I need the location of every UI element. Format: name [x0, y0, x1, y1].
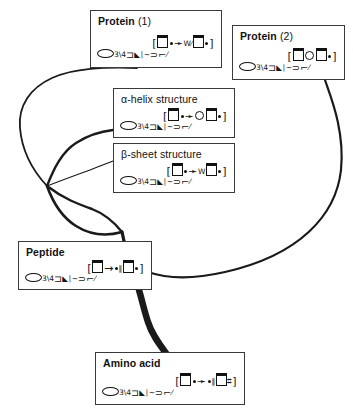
node-box-protein-1[interactable]: Protein (1) [➛W⁄] 3\4⊐◣∣~⊃⌐⁄: [90, 10, 222, 68]
node-label-amino-acid: Amino acid: [103, 357, 161, 369]
node-box-protein-2[interactable]: Protein (2) [] 3\4⊐◣∣~⊃⌐⁄: [232, 25, 345, 80]
glyph-row-top-beta-sheet: [➛W]: [167, 163, 227, 177]
glyph-row-top-protein-2: []: [288, 48, 337, 62]
glyph-row-bottom-alpha-helix: 3\4⊐◣∣~⊃⌐⁄: [120, 121, 191, 132]
glyph-row-top-protein-1: [➛W⁄]: [152, 35, 214, 49]
glyph-row-bottom-beta-sheet: 3\4⊐◣∣~⊃⌐⁄: [120, 176, 191, 187]
node-label-beta-sheet: β-sheet structure: [121, 148, 202, 160]
node-label-alpha-helix: α-helix structure: [121, 93, 198, 105]
node-label-protein-2: Protein (2): [240, 30, 293, 42]
glyph-row-top-alpha-helix: [➛]: [163, 108, 227, 122]
glyph-row-bottom-protein-2: 3\4⊐◣∣~⊃⌐⁄: [239, 62, 310, 73]
node-box-beta-sheet[interactable]: β-sheet structure [➛W] 3\4⊐◣∣~⊃⌐⁄: [113, 143, 235, 193]
node-box-alpha-helix[interactable]: α-helix structure [➛] 3\4⊐◣∣~⊃⌐⁄: [113, 88, 235, 138]
glyph-row-top-amino-acid: [➛‖⌗]: [175, 373, 237, 387]
glyph-row-bottom-peptide: 3\4⊐◣∣~⊃⌐⁄: [25, 273, 96, 284]
diagram-canvas: Protein (1) [➛W⁄] 3\4⊐◣∣~⊃⌐⁄ Protein (2)…: [0, 0, 353, 413]
node-label-protein-1: Protein (1): [98, 15, 151, 27]
node-box-peptide[interactable]: Peptide [→‖] 3\4⊐◣∣~⊃⌐⁄: [18, 241, 152, 290]
node-box-amino-acid[interactable]: Amino acid [➛‖⌗] 3\4⊐◣∣~⊃⌐⁄: [95, 352, 245, 405]
branch-trunk-amino-to-peptide: [139, 290, 168, 356]
glyph-row-bottom-protein-1: 3\4⊐◣∣~⊃⌐⁄: [97, 49, 168, 60]
glyph-row-bottom-amino-acid: 3\4⊐◣∣~⊃⌐⁄: [102, 387, 173, 398]
branch-fork-to-alpha-helix: [47, 130, 113, 186]
glyph-row-top-peptide: [→‖]: [87, 260, 144, 274]
node-label-peptide: Peptide: [26, 246, 65, 258]
